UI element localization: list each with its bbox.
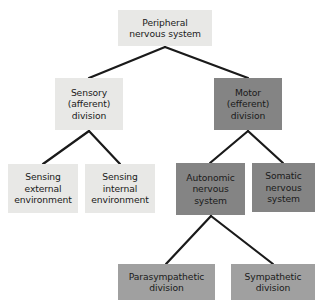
node-peripheral-nervous-system: Peripheral nervous system — [118, 10, 212, 46]
connector-layer — [0, 0, 326, 308]
node-somatic-nervous-system: Somatic nervous system — [252, 163, 315, 212]
node-sensing-external-environment: Sensing external environment — [8, 164, 78, 213]
node-label-sensing-external-environment: Sensing external environment — [12, 171, 73, 205]
node-parasympathetic-division: Parasympathetic division — [118, 264, 215, 300]
node-motor-efferent-division: Motor (efferent) division — [214, 78, 282, 130]
connector-root-to-motor — [165, 47, 248, 78]
node-sensory-afferent-division: Sensory (afferent) division — [55, 78, 123, 130]
nervous-system-diagram: Peripheral nervous systemSensory (affere… — [0, 0, 326, 308]
connector-autonomic-to-sympathetic — [211, 216, 273, 264]
node-label-peripheral-nervous-system: Peripheral nervous system — [127, 17, 203, 40]
node-autonomic-nervous-system: Autonomic nervous system — [176, 163, 245, 215]
node-label-sympathetic-division: Sympathetic division — [243, 271, 304, 294]
connector-motor-to-autonomic — [210, 131, 248, 163]
connector-sensory-to-external — [43, 131, 89, 164]
connector-sensory-to-internal — [89, 131, 120, 164]
node-label-sensing-internal-environment: Sensing internal environment — [89, 171, 150, 205]
connector-root-to-sensory — [89, 47, 165, 78]
node-label-somatic-nervous-system: Somatic nervous system — [263, 170, 304, 204]
node-sympathetic-division: Sympathetic division — [231, 264, 315, 300]
node-label-parasympathetic-division: Parasympathetic division — [127, 271, 207, 294]
node-label-motor-efferent-division: Motor (efferent) division — [225, 87, 272, 121]
node-sensing-internal-environment: Sensing internal environment — [85, 164, 155, 213]
connector-autonomic-to-parasympathetic — [166, 216, 211, 264]
connector-motor-to-somatic — [248, 131, 283, 163]
node-label-sensory-afferent-division: Sensory (afferent) division — [66, 87, 113, 121]
node-label-autonomic-nervous-system: Autonomic nervous system — [184, 172, 236, 206]
